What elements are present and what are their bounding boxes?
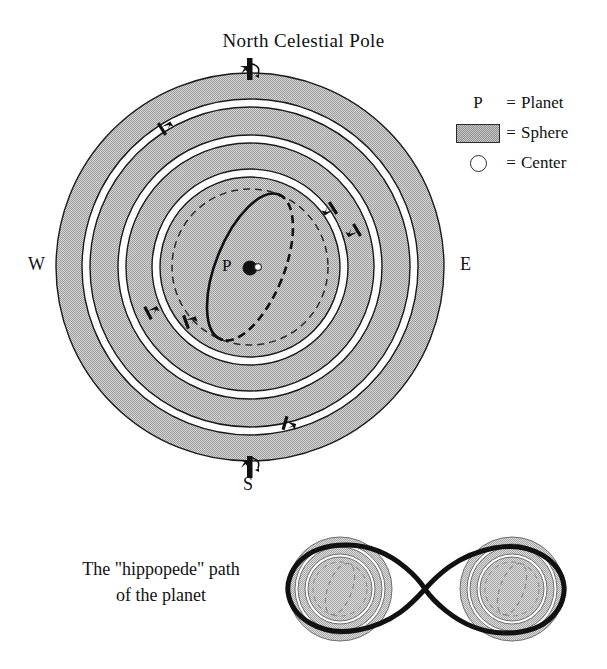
planet-label: P bbox=[222, 256, 231, 276]
direction-label-east: E bbox=[460, 254, 471, 275]
legend-symbol-sphere bbox=[455, 124, 501, 143]
legend-equals: = bbox=[501, 153, 521, 173]
legend-row-center: = Center bbox=[455, 148, 568, 178]
legend-symbol-center bbox=[455, 155, 501, 172]
figure-canvas: North Celestial Pole W E S P P = Planet … bbox=[0, 0, 607, 669]
legend-label-planet: Planet bbox=[521, 93, 564, 113]
hippopede-caption-line2: of the planet bbox=[36, 582, 286, 608]
letter-p-icon: P bbox=[473, 93, 482, 113]
legend: P = Planet = Sphere = Center bbox=[455, 88, 568, 178]
legend-equals: = bbox=[501, 123, 521, 143]
page-title-text: North Celestial Pole bbox=[222, 30, 384, 52]
center-marker-icon bbox=[255, 264, 262, 271]
legend-equals: = bbox=[501, 93, 521, 113]
legend-row-sphere: = Sphere bbox=[455, 118, 568, 148]
sphere-swatch-icon bbox=[456, 124, 500, 143]
page-title: North Celestial Pole bbox=[0, 30, 607, 52]
legend-label-center: Center bbox=[521, 153, 566, 173]
legend-row-planet: P = Planet bbox=[455, 88, 568, 118]
hippopede-caption: The "hippopede" path of the planet bbox=[36, 556, 286, 608]
hippopede-figure bbox=[288, 537, 564, 641]
legend-label-sphere: Sphere bbox=[521, 123, 568, 143]
hippopede-caption-line1: The "hippopede" path bbox=[36, 556, 286, 582]
center-circle-icon bbox=[470, 155, 487, 172]
legend-symbol-planet: P bbox=[455, 93, 501, 113]
direction-label-west: W bbox=[28, 254, 45, 275]
direction-label-south: S bbox=[243, 474, 253, 495]
